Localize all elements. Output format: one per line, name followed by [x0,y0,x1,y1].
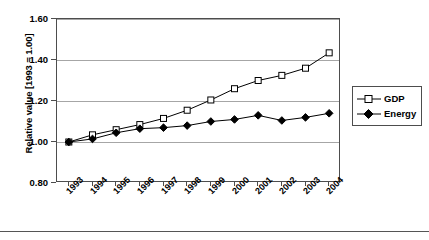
legend-marker-filled-diamond-icon [356,108,382,120]
data-point-energy-2000 [231,116,239,124]
y-tick-label: 1.60 [20,13,48,24]
data-point-energy-2003 [302,114,310,122]
legend-marker-open-square-icon [356,93,382,105]
legend-label-energy: Energy [384,108,416,119]
series-line-energy [69,113,329,142]
legend-item-gdp: GDP [356,91,416,106]
data-point-energy-2001 [254,112,262,120]
y-tick-label: 1.20 [20,95,48,106]
chart-figure: Relative value [1993 = 1.00] 0.801.001.2… [0,0,429,240]
plot-area [56,18,340,182]
data-point-gdp-2000 [232,86,238,92]
y-tick-label: 0.80 [20,177,48,188]
y-tick-label: 1.00 [20,136,48,147]
data-point-energy-1997 [160,124,168,132]
data-point-gdp-1998 [184,107,190,113]
data-point-gdp-1999 [208,97,214,103]
y-tick-label: 1.40 [20,54,48,65]
bottom-divider [0,231,429,232]
y-axis-title: Relative value [1993 = 1.00] [23,4,34,184]
legend-label-gdp: GDP [384,93,405,104]
data-point-gdp-1997 [161,115,167,121]
data-point-energy-1999 [207,118,215,126]
data-point-gdp-2003 [303,65,309,71]
data-point-energy-1998 [183,122,191,130]
legend-item-energy: Energy [356,106,416,121]
data-point-gdp-2004 [326,50,332,56]
data-point-energy-2004 [325,110,333,118]
data-point-gdp-2002 [279,72,285,78]
series-line-gdp [69,53,329,142]
data-point-gdp-2001 [255,78,261,84]
y-tick-mark [51,182,56,183]
data-point-energy-2002 [278,117,286,125]
chart-legend: GDP Energy [352,86,422,126]
series-layer [57,19,341,183]
